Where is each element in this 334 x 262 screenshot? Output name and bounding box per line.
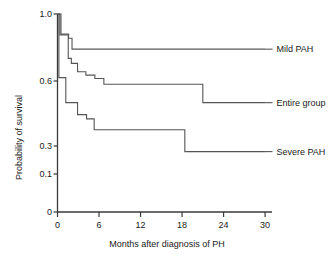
y-tick-label: 0.1 xyxy=(22,169,52,179)
y-tick-label: 0.3 xyxy=(22,141,52,151)
series-line-entire-group xyxy=(58,14,266,103)
series-line-mild-pah xyxy=(58,14,266,49)
x-tick-label: 0 xyxy=(43,220,73,230)
y-tick-label: 0 xyxy=(22,207,52,217)
x-tick-label: 18 xyxy=(167,220,197,230)
series-lines xyxy=(58,14,266,152)
series-label-entire-group: Entire group xyxy=(276,98,325,108)
x-tick-label: 6 xyxy=(84,220,114,230)
x-tick-label: 30 xyxy=(250,220,280,230)
y-tick-label: 0.6 xyxy=(22,76,52,86)
series-line-severe-pah xyxy=(58,14,266,152)
series-label-severe-pah: Severe PAH xyxy=(276,147,325,157)
series-leader-lines xyxy=(265,49,272,151)
x-tick-label: 24 xyxy=(209,220,239,230)
y-tick-label: 1.0 xyxy=(22,9,52,19)
y-axis-title: Probability of survival xyxy=(14,95,24,180)
series-label-mild-pah: Mild PAH xyxy=(276,44,313,54)
x-axis-title: Months after diagnosis of PH xyxy=(0,239,334,249)
kaplan-meier-survival-chart: 00.10.30.61.0 0612182430 Mild PAHEntire … xyxy=(0,0,334,262)
x-axis-ticks xyxy=(58,212,266,217)
x-tick-label: 12 xyxy=(126,220,156,230)
